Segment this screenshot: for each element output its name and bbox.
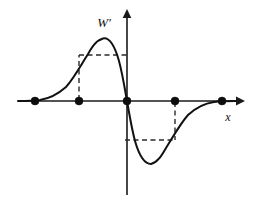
y-axis-label: W′ <box>97 15 111 30</box>
x-axis-label: x <box>224 110 231 124</box>
figure-container: W′ x <box>0 0 255 210</box>
derivative-curve-figure: W′ x <box>0 0 255 210</box>
axis-dot-origin <box>123 97 131 105</box>
axis-dot-1 <box>31 97 39 105</box>
axis-dot-4 <box>171 97 179 105</box>
axis-dot-2 <box>75 97 83 105</box>
axis-dot-5 <box>218 97 226 105</box>
